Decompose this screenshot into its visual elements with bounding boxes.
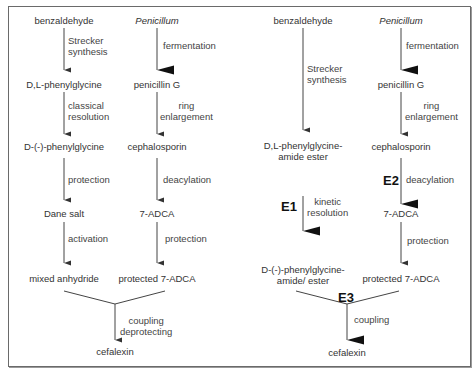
node-dl-phenylglycine-amide-ester: D,L-phenylglycine- amide ester — [264, 140, 343, 162]
step-line: deprotecting — [120, 327, 172, 338]
step-line: Strecker — [68, 36, 108, 47]
step-line: fermentation — [163, 41, 216, 52]
node-line: D,L-phenylglycine- — [264, 140, 343, 151]
enzyme-e2-label: E2 — [383, 174, 399, 187]
step-protection-b-left: protection — [165, 234, 207, 245]
step-line: activation — [68, 234, 108, 245]
node-cephalosporin-left: cephalosporin — [127, 141, 186, 152]
node-dane-salt: Dane salt — [44, 208, 84, 219]
enzyme-e1-label: E1 — [281, 200, 297, 213]
step-line: coupling — [120, 316, 172, 327]
node-benzaldehyde-left: benzaldehyde — [34, 15, 93, 26]
node-7-adca-left: 7-ADCA — [140, 208, 175, 219]
node-penicillin-g-left: penicillin G — [134, 79, 180, 90]
step-line: enlargement — [160, 112, 213, 123]
step-line: ring — [405, 101, 458, 112]
step-strecker-left: Strecker synthesis — [68, 36, 108, 57]
step-fermentation-left: fermentation — [163, 41, 216, 52]
step-ring-enlargement-right: ring enlargement — [405, 101, 458, 122]
node-cefalexin-right: cefalexin — [328, 347, 366, 358]
step-protection-right: protection — [407, 236, 449, 247]
step-line: kinetic — [307, 197, 348, 208]
diagram-canvas: benzaldehyde D,L-phenylglycine D-(-)-phe… — [0, 0, 474, 372]
node-benzaldehyde-right: benzaldehyde — [273, 15, 332, 26]
node-line: amide/ ester — [261, 275, 344, 286]
enzyme-e3-label: E3 — [338, 291, 354, 304]
step-line: coupling — [354, 315, 389, 326]
node-penicillum-right: Penicillum — [379, 15, 422, 26]
step-deacylation-right: deacylation — [406, 175, 454, 186]
node-protected-7-adca-right: protected 7-ADCA — [362, 273, 439, 284]
step-coupling-right: coupling — [354, 315, 389, 326]
node-penicillum-left: Penicillum — [135, 15, 178, 26]
step-line: deacylation — [406, 175, 454, 186]
step-ring-enlargement-left: ring enlargement — [160, 101, 213, 122]
step-protection-left: protection — [68, 175, 110, 186]
node-cefalexin-left: cefalexin — [96, 346, 134, 357]
step-line: protection — [407, 236, 449, 247]
node-penicillin-g-right: penicillin G — [378, 79, 424, 90]
node-line: amide ester — [264, 151, 343, 162]
node-7-adca-right: 7-ADCA — [384, 208, 419, 219]
step-line: ring — [160, 101, 213, 112]
step-line: Strecker — [307, 64, 347, 75]
step-kinetic-resolution: kinetic resolution — [307, 197, 348, 218]
node-protected-7-adca-left: protected 7-ADCA — [118, 273, 195, 284]
step-line: synthesis — [68, 47, 108, 58]
node-d-phenylglycine-amide-ester: D-(-)-phenylglycine- amide/ ester — [261, 264, 344, 286]
step-activation: activation — [68, 234, 108, 245]
node-cephalosporin-right: cephalosporin — [371, 141, 430, 152]
step-line: enlargement — [405, 112, 458, 123]
step-line: classical — [68, 101, 109, 112]
node-d-phenylglycine: D-(-)-phenylglycine — [24, 141, 104, 152]
step-line: synthesis — [307, 75, 347, 86]
node-line: D-(-)-phenylglycine- — [261, 264, 344, 275]
step-line: protection — [165, 234, 207, 245]
step-strecker-right: Strecker synthesis — [307, 64, 347, 85]
step-fermentation-right: fermentation — [406, 41, 459, 52]
step-line: resolution — [307, 208, 348, 219]
step-line: deacylation — [163, 175, 211, 186]
step-classical-resolution: classical resolution — [68, 101, 109, 122]
step-line: resolution — [68, 112, 109, 123]
node-dl-phenylglycine: D,L-phenylglycine — [26, 79, 102, 90]
merge-lines-left — [64, 291, 165, 304]
step-line: protection — [68, 175, 110, 186]
step-deacylation-left: deacylation — [163, 175, 211, 186]
node-mixed-anhydride: mixed anhydride — [29, 273, 99, 284]
step-coupling-deprotecting: coupling deprotecting — [120, 316, 172, 337]
step-line: fermentation — [406, 41, 459, 52]
